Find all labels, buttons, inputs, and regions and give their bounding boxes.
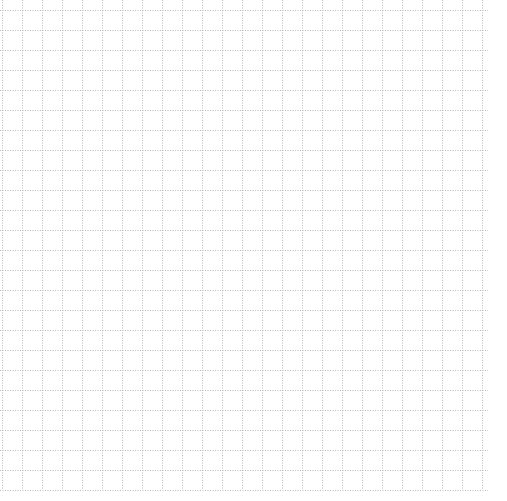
grid-paper: [0, 0, 507, 501]
